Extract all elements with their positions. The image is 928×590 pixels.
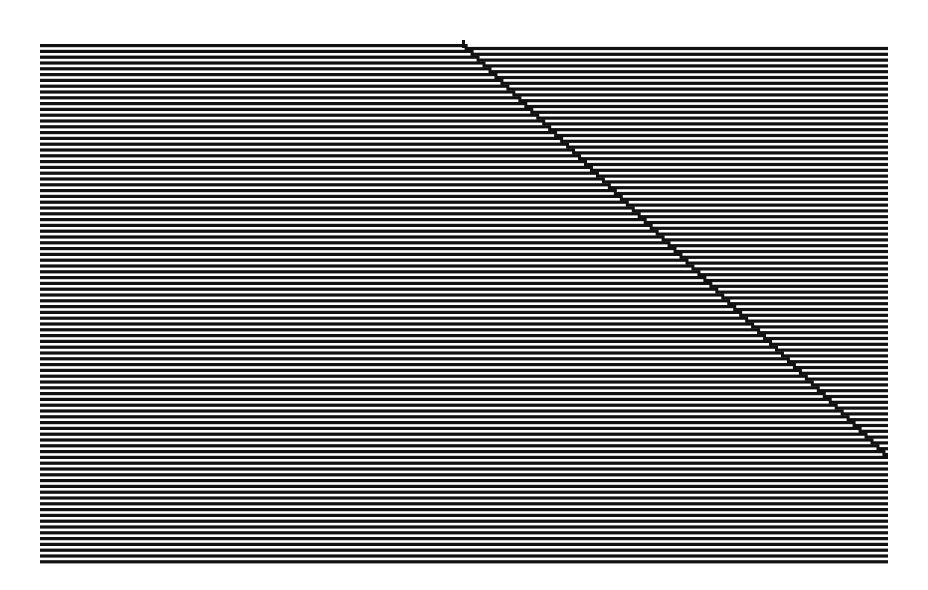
grating-line-right — [741, 314, 888, 317]
grating-line-left — [40, 317, 747, 320]
grating-line-right — [615, 192, 888, 195]
stair-step — [530, 108, 533, 114]
stair-step — [811, 380, 814, 386]
grating-line-right — [639, 215, 888, 218]
grating-line-right — [711, 285, 888, 288]
grating-line-left — [40, 85, 508, 88]
grating-line-right — [550, 128, 888, 131]
grating-line-right — [538, 117, 888, 120]
grating-line-left — [40, 288, 717, 291]
stair-step — [584, 160, 587, 166]
grating-line-right — [699, 273, 888, 276]
grating-line-left — [40, 357, 788, 360]
stair-step — [471, 50, 474, 56]
stair-step — [650, 224, 653, 230]
grating-line-left — [40, 148, 574, 151]
grating-line-right — [842, 412, 888, 415]
grating-line-left — [40, 351, 782, 354]
grating-line-left — [40, 508, 888, 511]
grating-line-left — [40, 392, 824, 395]
stair-step — [745, 317, 748, 323]
grating-line-left — [40, 491, 888, 494]
stair-step — [638, 212, 641, 218]
grating-line-left — [40, 177, 603, 180]
stair-step — [679, 253, 682, 259]
grating-line-right — [472, 53, 888, 56]
grating-line-left — [40, 56, 478, 59]
grating-line-left — [40, 554, 888, 557]
grating-line-left — [40, 201, 627, 204]
grating-line-right — [830, 401, 888, 404]
grating-line-left — [40, 206, 633, 209]
stair-step — [668, 241, 671, 247]
grating-line-right — [723, 296, 888, 299]
grating-line-right — [765, 337, 888, 340]
stair-step — [524, 102, 527, 108]
grating-line-right — [490, 70, 888, 73]
grating-line-right — [818, 389, 888, 392]
grating-line-left — [40, 137, 562, 140]
grating-line-left — [40, 502, 888, 505]
stair-step — [871, 438, 874, 444]
grating-line-left — [40, 473, 888, 476]
grating-line-left — [40, 409, 842, 412]
grating-line-right — [532, 111, 888, 114]
grating-line-left — [40, 467, 888, 470]
stair-step — [632, 206, 635, 212]
grating-line-left — [40, 537, 888, 540]
grating-line-left — [40, 195, 621, 198]
grating-line-right — [651, 227, 888, 230]
stair-step — [775, 346, 778, 352]
grating-line-left — [40, 183, 609, 186]
grating-line-right — [860, 430, 888, 433]
stair-step — [506, 85, 509, 91]
grating-line-right — [627, 204, 888, 207]
grating-line-left — [40, 386, 818, 389]
grating-line-left — [40, 212, 639, 215]
stair-step — [685, 259, 688, 265]
stair-step — [518, 96, 521, 102]
grating-line-right — [854, 424, 888, 427]
grating-line-right — [782, 354, 888, 357]
grating-line-right — [693, 267, 888, 270]
stair-step — [626, 201, 629, 207]
grating-line-right — [544, 122, 888, 125]
grating-line-right — [800, 372, 888, 375]
stair-step — [715, 288, 718, 294]
grating-line-right — [556, 134, 888, 137]
grating-line-right — [848, 418, 888, 421]
grating-line-left — [40, 322, 753, 325]
grating-line-left — [40, 264, 693, 267]
stair-step — [823, 392, 826, 398]
grating-line-right — [580, 157, 888, 160]
stair-step — [477, 56, 480, 62]
grating-line-left — [40, 433, 866, 436]
grating-line-right — [568, 146, 888, 149]
grating-line-left — [40, 380, 812, 383]
stair-step — [781, 351, 784, 357]
grating-line-right — [747, 320, 888, 323]
grating-line-left — [40, 224, 651, 227]
grating-line-left — [40, 421, 854, 424]
grating-line-right — [735, 308, 888, 311]
stair-step — [614, 189, 617, 195]
stair-step — [483, 61, 486, 67]
grating-line-left — [40, 346, 777, 349]
grating-line-right — [663, 238, 888, 241]
stair-step — [566, 143, 569, 149]
grating-line-left — [40, 479, 888, 482]
grating-line-left — [40, 276, 705, 279]
stair-step — [727, 299, 730, 305]
stair-step — [572, 148, 575, 154]
grating-line-left — [40, 450, 884, 453]
grating-line-right — [585, 163, 888, 166]
stair-step — [853, 421, 856, 427]
grating-line-left — [40, 305, 735, 308]
stair-step — [554, 131, 557, 137]
grating-line-right — [753, 325, 888, 328]
stair-step — [465, 44, 468, 50]
grating-line-right — [878, 447, 888, 450]
stair-step — [536, 114, 539, 120]
grating-line-left — [40, 259, 687, 262]
stair-step — [494, 73, 497, 79]
